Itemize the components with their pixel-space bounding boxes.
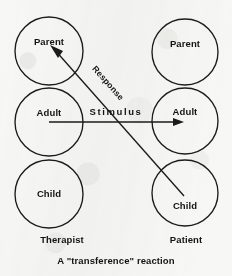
patient-parent-circle[interactable] xyxy=(152,19,218,85)
patient-adult-circle[interactable] xyxy=(152,88,218,154)
column-patient: Parent Adult Child Patient xyxy=(152,19,218,245)
ego-state-patient-child[interactable]: Child xyxy=(152,160,218,226)
therapist-parent-circle[interactable] xyxy=(15,17,83,85)
ego-state-therapist-parent[interactable]: Parent xyxy=(15,17,83,85)
patient-child-circle[interactable] xyxy=(152,160,218,226)
stimulus-transaction-arrow[interactable]: Stimulus xyxy=(49,106,184,126)
ego-state-patient-adult[interactable]: Adult xyxy=(152,88,218,154)
figure-canvas: Parent Adult Child Therapist Parent Adul… xyxy=(0,0,232,276)
patient-parent-label: Parent xyxy=(170,38,201,49)
patient-child-label: Child xyxy=(173,200,197,211)
stimulus-arrow-label: Stimulus xyxy=(90,106,143,117)
patient-person-label: Patient xyxy=(170,234,203,245)
therapist-child-label: Child xyxy=(37,188,61,199)
stimulus-arrow-head xyxy=(173,118,184,126)
transactional-analysis-diagram: Parent Adult Child Therapist Parent Adul… xyxy=(0,0,232,276)
ego-state-patient-parent[interactable]: Parent xyxy=(152,19,218,85)
therapist-person-label: Therapist xyxy=(40,234,84,245)
response-transaction-arrow[interactable]: Response xyxy=(50,45,184,196)
ego-state-therapist-child[interactable]: Child xyxy=(15,160,83,228)
column-therapist: Parent Adult Child Therapist xyxy=(15,17,85,245)
therapist-parent-label: Parent xyxy=(34,36,65,47)
patient-adult-label: Adult xyxy=(173,106,199,117)
figure-caption: A "transference" reaction xyxy=(57,255,174,266)
therapist-adult-label: Adult xyxy=(37,107,63,118)
